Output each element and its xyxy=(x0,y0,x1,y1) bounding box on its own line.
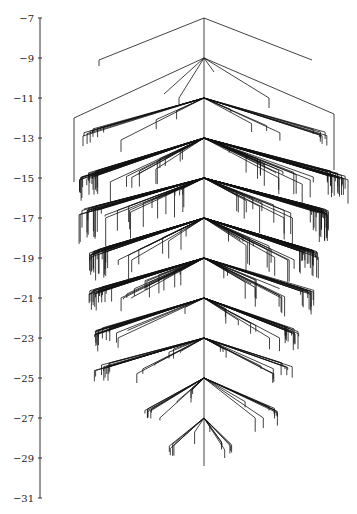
tree-edge xyxy=(204,178,323,217)
tree-edge xyxy=(149,258,204,297)
tick-label: −19 xyxy=(13,253,34,264)
tree-edge xyxy=(151,378,204,419)
tick-label: −21 xyxy=(13,293,34,304)
tree-edge xyxy=(90,218,204,261)
tree-edge xyxy=(204,418,225,458)
tree-edge xyxy=(170,418,204,455)
tree-edge xyxy=(204,138,335,181)
tree-edge xyxy=(204,98,327,146)
tree-edge xyxy=(204,98,319,137)
tree-edge xyxy=(152,178,204,208)
tree-edge xyxy=(204,258,256,299)
tree-edge xyxy=(137,338,204,383)
tree-edge xyxy=(106,178,204,246)
tree-edge xyxy=(143,178,204,227)
tick-label: −15 xyxy=(13,173,34,184)
tree-edge xyxy=(204,298,251,334)
tree-edge xyxy=(80,138,204,192)
tree-edge xyxy=(148,378,204,418)
tree-edge xyxy=(204,98,252,132)
tree-diagram: −7−9−11−13−15−17−19−21−23−25−27−29−31 xyxy=(0,0,357,514)
tree-edge xyxy=(179,58,204,104)
tree-edge xyxy=(139,218,204,264)
tree-edge xyxy=(139,138,204,187)
tree-edge xyxy=(204,338,226,358)
tree-edge xyxy=(90,98,204,143)
tree-branches xyxy=(74,18,348,466)
tree-edge xyxy=(204,258,279,307)
tree-edge xyxy=(204,378,255,432)
tree-edge xyxy=(204,258,285,316)
y-axis: −7−9−11−13−15−17−19−21−23−25−27−29−31 xyxy=(13,13,42,504)
tree-edge xyxy=(204,178,312,215)
tree-edge xyxy=(204,178,324,218)
tree-edge xyxy=(164,58,204,94)
tree-edge xyxy=(87,138,204,185)
tree-edge xyxy=(93,98,204,137)
tree-edge xyxy=(204,338,285,369)
tree-edge xyxy=(204,218,275,276)
tree-edge xyxy=(204,98,322,144)
tree-edge xyxy=(204,218,246,270)
tree-edge xyxy=(156,98,204,129)
tree-edge xyxy=(74,58,204,182)
tick-label: −25 xyxy=(13,373,34,384)
tree-edge xyxy=(204,178,316,217)
tree-edge xyxy=(204,18,312,60)
tick-label: −31 xyxy=(13,493,34,504)
tree-edge xyxy=(193,378,204,394)
tick-label: −17 xyxy=(13,213,34,224)
tick-label: −11 xyxy=(13,93,34,104)
tree-edge xyxy=(204,338,274,382)
tree-edge xyxy=(148,378,204,418)
tree-edge xyxy=(204,378,263,428)
tree-edge xyxy=(95,138,204,179)
tree-edge xyxy=(104,98,204,133)
tick-label: −27 xyxy=(13,413,34,424)
tick-label: −9 xyxy=(19,53,34,64)
tick-label: −7 xyxy=(19,13,34,24)
tree-edge xyxy=(95,178,204,239)
tree-edge xyxy=(181,218,204,250)
tree-edge xyxy=(92,138,204,184)
tree-edge xyxy=(204,378,277,417)
tree-edge xyxy=(129,178,204,222)
tree-edge xyxy=(174,418,204,456)
tree-edge xyxy=(97,218,204,259)
tree-edge xyxy=(98,298,204,337)
tree-edge xyxy=(98,98,204,137)
tick-label: −29 xyxy=(13,453,34,464)
tree-edge xyxy=(99,18,204,66)
tree-edge xyxy=(204,138,294,194)
tree-edge xyxy=(204,138,342,185)
tree-edge xyxy=(204,58,334,170)
tree-edge xyxy=(204,338,273,383)
tick-label: −13 xyxy=(13,133,34,144)
tree-edge xyxy=(204,218,303,253)
tree-edge xyxy=(83,138,204,187)
tree-edge xyxy=(147,378,204,418)
tree-edge xyxy=(204,138,279,194)
tree-edge xyxy=(204,378,276,416)
tree-edge xyxy=(204,178,274,223)
tree-edge xyxy=(87,98,204,144)
tree-edge xyxy=(173,418,204,456)
tree-edge xyxy=(90,138,204,183)
tree-edge xyxy=(204,138,331,179)
tree-edge xyxy=(204,258,255,298)
tree-edge xyxy=(204,98,321,138)
tree-edge xyxy=(204,98,320,142)
tree-edge xyxy=(204,298,238,325)
tick-label: −23 xyxy=(13,333,34,344)
